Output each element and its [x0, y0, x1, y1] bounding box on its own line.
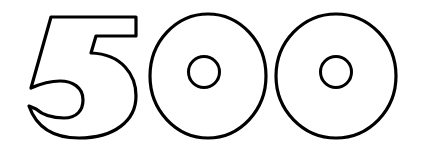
- number-500-outline: [0, 0, 431, 147]
- digit-0-first: [150, 14, 266, 138]
- digit-5: [29, 17, 136, 138]
- outlined-500-graphic: 500: [0, 0, 431, 147]
- digit-0-second: [276, 14, 396, 138]
